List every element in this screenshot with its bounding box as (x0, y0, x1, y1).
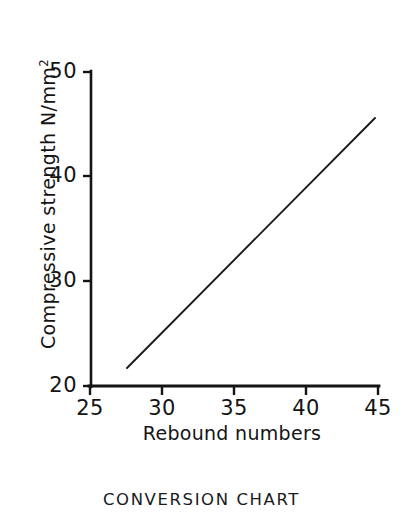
x-axis-title: Rebound numbers (72, 422, 392, 444)
conversion-data-line (127, 118, 375, 368)
y-axis-title-text: Compressive strength N/mm (37, 67, 59, 349)
x-tick-label-40: 40 (283, 396, 329, 420)
plot-area: 50 40 30 20 25 30 35 40 45 Compressive s… (0, 0, 403, 470)
x-tick-label-45: 45 (355, 396, 401, 420)
x-tick-label-35: 35 (211, 396, 257, 420)
y-axis-title-superscript: 2 (37, 59, 51, 67)
conversion-chart-figure: 50 40 30 20 25 30 35 40 45 Compressive s… (0, 0, 403, 523)
x-tick-label-25: 25 (67, 396, 113, 420)
figure-caption: CONVERSION CHART (0, 490, 403, 509)
y-axis-title: Compressive strength N/mm2 (37, 34, 59, 374)
x-tick-label-30: 30 (139, 396, 185, 420)
y-tick-label-20: 20 (33, 373, 77, 397)
